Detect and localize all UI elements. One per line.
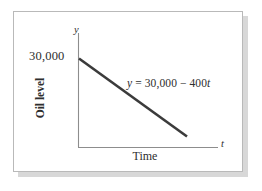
x-axis-symbol: t	[221, 138, 224, 149]
figure-root: 30,000 Oil level Time y t y = 30,000 − 4…	[0, 0, 262, 191]
y-axis-title: Oil level	[34, 57, 46, 139]
equation-body: = 30,000 − 400	[132, 77, 207, 89]
equation-annotation: y = 30,000 − 400t	[127, 77, 210, 89]
equation-trailing-variable: t	[207, 77, 210, 89]
data-line-oil-level	[79, 59, 187, 137]
y-axis-symbol: y	[74, 24, 79, 35]
x-axis-title: Time	[112, 149, 178, 164]
